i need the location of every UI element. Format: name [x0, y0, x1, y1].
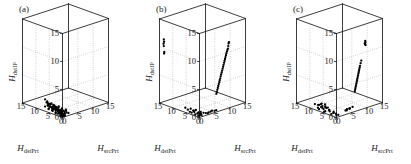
- plot-panel-a: (a) 051015051015051015HdstIPHdstPrtHsrcP…: [0, 0, 137, 164]
- z-tick-label: 15: [324, 28, 333, 38]
- y-axis-title: HdstPrt: [290, 143, 313, 154]
- z-axis-title: HdstIP: [281, 62, 292, 83]
- x-axis-title: HsrcPrt: [96, 143, 119, 154]
- y-tick-label: 15: [17, 101, 26, 111]
- x-tick-label: 10: [228, 106, 237, 116]
- z-axis-title: HdstIP: [144, 62, 155, 83]
- x-tick-label: 15: [380, 101, 389, 111]
- scatter3d-plot: 051015051015051015HdstIPHdstPrtHsrcPrt: [274, 0, 411, 164]
- axis-ticks: 051015051015051015: [154, 28, 252, 126]
- z-tick-label: 15: [187, 28, 196, 38]
- y-tick-label: 5: [320, 111, 324, 121]
- y-axis-title: HdstPrt: [153, 143, 176, 154]
- y-tick-label: 15: [154, 101, 163, 111]
- x-tick-label: 0: [199, 116, 203, 126]
- x-tick-label: 10: [365, 106, 374, 116]
- scatter3d-plot: 051015051015051015HdstIPHdstPrtHsrcPrt: [0, 0, 137, 164]
- scatter3d-plot: 051015051015051015HdstIPHdstPrtHsrcPrt: [137, 0, 274, 164]
- data-points: [314, 40, 367, 117]
- y-tick-label: 10: [167, 106, 176, 116]
- plot-panel-b: (b) 051015051015051015HdstIPHdstPrtHsrcP…: [137, 0, 274, 164]
- y-tick-label: 5: [46, 111, 50, 121]
- z-tick-label: 10: [187, 56, 196, 66]
- x-tick-label: 10: [91, 106, 100, 116]
- y-tick-label: 5: [183, 111, 187, 121]
- grid-lines: [297, 24, 383, 113]
- x-tick-label: 5: [78, 111, 82, 121]
- axis-box: [297, 4, 383, 118]
- y-axis-title: HdstPrt: [16, 143, 39, 154]
- grid-lines: [160, 24, 246, 113]
- x-axis-title: HsrcPrt: [370, 143, 393, 154]
- figure-container: (a) 051015051015051015HdstIPHdstPrtHsrcP…: [0, 0, 411, 164]
- z-tick-label: 15: [50, 28, 59, 38]
- x-axis-title: HsrcPrt: [233, 143, 256, 154]
- z-tick-label: 5: [192, 84, 196, 94]
- z-tick-label: 10: [50, 56, 59, 66]
- x-tick-label: 15: [106, 101, 115, 111]
- x-tick-label: 5: [352, 111, 356, 121]
- grid-lines: [23, 24, 109, 113]
- axis-box: [160, 4, 246, 118]
- x-tick-label: 0: [62, 116, 66, 126]
- z-tick-label: 5: [329, 84, 333, 94]
- axis-box: [23, 4, 109, 118]
- z-tick-label: 10: [324, 56, 333, 66]
- z-axis-title: HdstIP: [7, 62, 18, 83]
- x-tick-label: 15: [243, 101, 252, 111]
- y-tick-label: 15: [291, 101, 300, 111]
- y-tick-label: 10: [30, 106, 39, 116]
- x-tick-label: 5: [215, 111, 219, 121]
- z-tick-label: 5: [55, 84, 59, 94]
- x-tick-label: 0: [336, 116, 340, 126]
- y-tick-label: 10: [304, 106, 313, 116]
- axis-ticks: 051015051015051015: [291, 28, 389, 126]
- plot-panel-c: (c) 051015051015051015HdstIPHdstPrtHsrcP…: [274, 0, 411, 164]
